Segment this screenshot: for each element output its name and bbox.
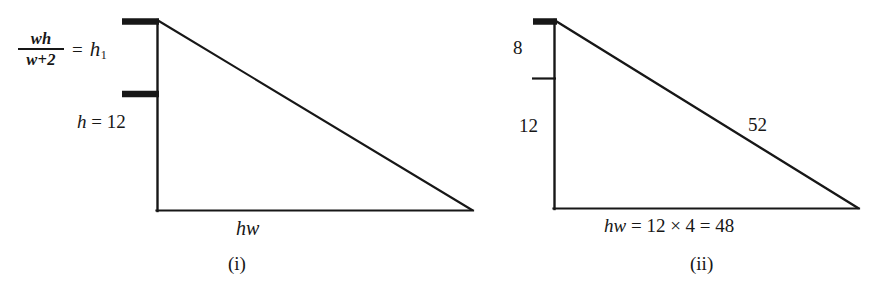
label-h-equals-12: h = 12	[77, 112, 126, 131]
label-segment-8: 8	[513, 38, 523, 57]
fraction-wh-over-w-plus-2: wh w+2	[18, 30, 64, 69]
triangle-ii-hypotenuse	[555, 21, 858, 209]
label-base-hw-calculation-rest: = 12 × 4 = 48	[626, 215, 734, 236]
fraction-denominator: w+2	[23, 50, 58, 68]
variable-h-sub-1: h1	[90, 39, 107, 60]
label-segment-12: 12	[519, 116, 538, 135]
variable-hw-italic: hw	[604, 215, 626, 236]
label-base-hw: hw	[236, 218, 259, 238]
fraction-numerator: wh	[28, 30, 55, 48]
variable-h: h	[90, 37, 101, 61]
variable-h-italic: h	[77, 111, 87, 132]
label-h-equals-12-rest: = 12	[87, 111, 126, 132]
caption-panel-ii: (ii)	[690, 254, 713, 273]
triangle-ii	[532, 20, 859, 209]
triangle-i	[122, 20, 473, 211]
triangle-i-hypotenuse	[158, 21, 472, 211]
figure-canvas	[0, 0, 886, 297]
subscript-1: 1	[101, 48, 107, 62]
equals-sign: =	[72, 40, 83, 59]
caption-panel-i: (i)	[228, 254, 246, 273]
label-hypotenuse-52: 52	[748, 115, 767, 134]
formula-h1-expression: wh w+2 = h1	[18, 30, 106, 69]
label-base-hw-calculation: hw = 12 × 4 = 48	[604, 216, 734, 235]
geometry-figure: wh w+2 = h1 h = 12 hw (i) 8 12 52 hw = 1…	[0, 0, 886, 297]
